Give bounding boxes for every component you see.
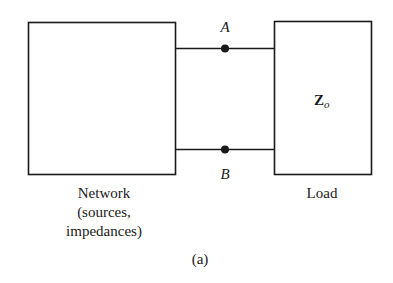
terminal-a-label: A [219, 19, 230, 35]
network-box [29, 23, 176, 175]
circuit-diagram: A B Zo Network (sources, impedances) Loa… [0, 0, 393, 283]
terminal-a-node [221, 45, 229, 53]
terminal-b-label: B [220, 166, 229, 182]
network-label-line-3: impedances) [66, 223, 142, 240]
load-impedance-symbol: Zo [314, 92, 330, 110]
impedance-subscript: o [324, 98, 330, 110]
figure-caption: (a) [192, 251, 209, 268]
network-label-line-1: Network [78, 185, 131, 201]
network-label-line-2: (sources, [77, 204, 131, 221]
impedance-z: Z [314, 92, 324, 108]
load-label: Load [307, 185, 338, 201]
terminal-b-node [221, 146, 229, 154]
